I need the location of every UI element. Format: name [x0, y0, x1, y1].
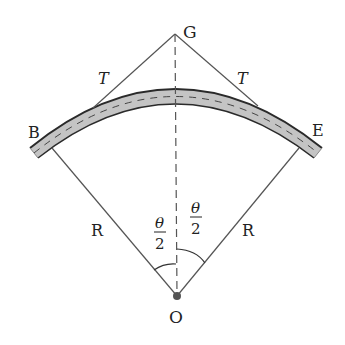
- angle-left-denominator: 2: [155, 235, 165, 253]
- center-point: [173, 292, 181, 300]
- angle-label-left: θ 2: [154, 214, 166, 253]
- label-center-o: O: [169, 307, 183, 327]
- label-apex-g: G: [183, 22, 197, 42]
- angle-right-denominator: 2: [191, 220, 201, 238]
- angle-right-numerator: θ: [191, 199, 200, 217]
- angle-arc-right: [177, 249, 205, 263]
- label-radius-right: R: [242, 221, 255, 240]
- angle-label-right: θ 2: [190, 199, 202, 238]
- label-end-e: E: [312, 121, 324, 140]
- label-begin-b: B: [28, 123, 40, 142]
- angle-arc-left: [154, 264, 176, 270]
- curve-diagram: G T T B E R R O θ 2 θ 2: [0, 0, 345, 345]
- label-radius-left: R: [91, 221, 104, 240]
- bisector-dashed-line: [175, 34, 177, 296]
- label-tangent-right: T: [237, 69, 249, 88]
- label-tangent-left: T: [98, 69, 110, 88]
- angle-left-numerator: θ: [155, 214, 164, 232]
